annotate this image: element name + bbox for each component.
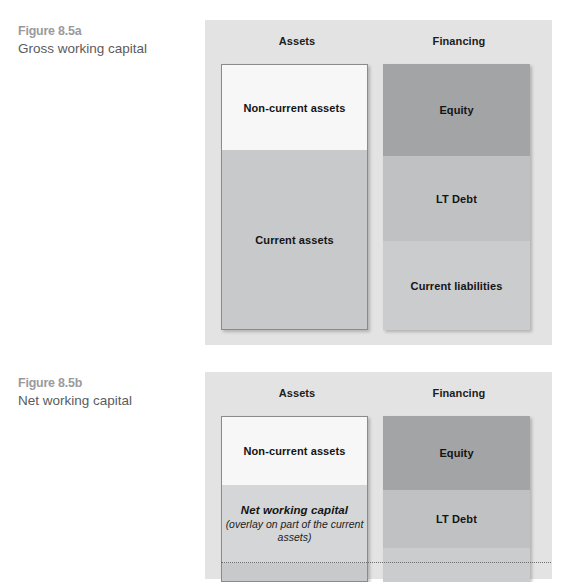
segment-current-liabilities-a: Current liabilities (383, 241, 530, 330)
segment-label: Current assets (255, 233, 333, 247)
financing-stack-b: Equity LT Debt (383, 416, 530, 582)
assets-stack-a: Non-current assets Current assets (221, 64, 368, 330)
segment-equity-a: Equity (383, 64, 530, 156)
segment-label: Equity (439, 103, 473, 117)
segment-label: LT Debt (436, 512, 477, 526)
segment-label: Current liabilities (411, 279, 503, 293)
nwc-subtitle: (overlay on part of the current assets) (222, 518, 367, 544)
segment-label: Non-current assets (243, 101, 345, 115)
figure-number-b: Figure 8.5b (18, 374, 174, 391)
financing-stack-a: Equity LT Debt Current liabilities (383, 64, 530, 330)
column-title-assets-a: Assets (221, 35, 373, 47)
figure-caption-a: Figure 8.5a Gross working capital (18, 22, 188, 58)
net-working-capital-text: Net working capital (overlay on part of … (222, 504, 367, 545)
segment-current-assets-a: Current assets (222, 150, 367, 329)
figure-title-b: Net working capital (18, 392, 188, 410)
segment-current-liabilities-b (383, 548, 530, 582)
figure-title-a: Gross working capital (18, 40, 188, 58)
segment-label: LT Debt (436, 192, 477, 206)
nwc-title: Net working capital (241, 504, 348, 518)
segment-current-assets-b (222, 563, 367, 581)
segment-non-current-assets-b: Non-current assets (222, 417, 367, 485)
column-title-financing-a: Financing (383, 35, 535, 47)
segment-equity-b: Equity (383, 416, 530, 490)
segment-lt-debt-b: LT Debt (383, 490, 530, 548)
figure-caption-b: Figure 8.5b Net working capital (18, 374, 188, 410)
column-title-assets-b: Assets (221, 387, 373, 399)
segment-label: Equity (439, 446, 473, 460)
net-working-capital-connector (221, 562, 551, 563)
figure-panel-a: Assets Financing Non-current assets Curr… (205, 20, 552, 345)
segment-net-working-capital-b: Net working capital (overlay on part of … (222, 485, 367, 563)
figure-number-a: Figure 8.5a (18, 22, 174, 39)
figure-panel-b: Assets Financing Non-current assets Net … (205, 372, 552, 579)
segment-lt-debt-a: LT Debt (383, 156, 530, 241)
assets-stack-b: Non-current assets Net working capital (… (221, 416, 368, 582)
segment-label: Non-current assets (243, 444, 345, 458)
column-title-financing-b: Financing (383, 387, 535, 399)
segment-non-current-assets-a: Non-current assets (222, 65, 367, 150)
